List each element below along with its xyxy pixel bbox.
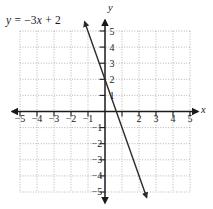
- equation-coefficient: −3: [24, 14, 37, 26]
- x-tick-label-2: 2: [132, 113, 146, 124]
- x-tick-label-4: 4: [166, 113, 180, 124]
- equation-equals: =: [14, 14, 21, 26]
- y-tick-label-neg1: −1: [90, 122, 104, 133]
- x-tick-label-neg2: −2: [64, 113, 78, 124]
- x-tick-label-neg3: −3: [47, 113, 61, 124]
- y-tick-label-neg2: −2: [90, 138, 104, 149]
- y-tick-label-4: 4: [105, 42, 119, 53]
- y-tick-label-2: 2: [105, 74, 119, 85]
- y-tick-label-3: 3: [105, 58, 119, 69]
- equation-constant: + 2: [45, 14, 61, 26]
- equation-variable: x: [37, 14, 42, 26]
- x-tick-label-neg4: −4: [30, 113, 44, 124]
- x-axis-label: x: [201, 104, 206, 115]
- y-tick-label-neg4: −4: [90, 170, 104, 181]
- y-tick-label-1: 1: [105, 90, 119, 101]
- y-tick-label-5: 5: [105, 26, 119, 37]
- y-tick-label-neg5: −5: [90, 186, 104, 197]
- y-axis-label: y: [108, 2, 113, 13]
- equation-lhs: y: [6, 14, 11, 26]
- y-tick-label-neg3: −3: [90, 154, 104, 165]
- coordinate-graph-figure: y = −3x + 2 y x −5 −4 −3 −2 −1 2 3 4 5 5…: [0, 0, 213, 209]
- equation-label: y = −3x + 2: [6, 14, 61, 26]
- x-tick-label-neg5: −5: [13, 113, 27, 124]
- x-tick-label-5: 5: [183, 113, 197, 124]
- x-tick-label-3: 3: [149, 113, 163, 124]
